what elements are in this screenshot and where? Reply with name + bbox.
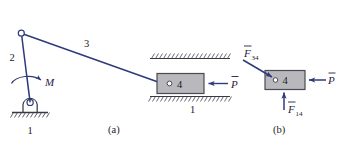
label-force-P-b: P: [327, 73, 336, 86]
label-force-F14-subscript: 14: [296, 110, 304, 118]
label-force-P-b-text: P: [327, 74, 335, 86]
label-force-F34: F 34: [243, 46, 259, 62]
label-force-F34-text: F: [243, 47, 251, 59]
label-force-F14-text: F: [287, 103, 295, 115]
label-ground-1-slider: 1: [190, 104, 195, 115]
figure-canvas: 2 3 M 1: [0, 0, 343, 150]
slider-guide-lower: [149, 97, 232, 102]
link-2-crank: [22, 34, 31, 102]
caption-a: (a): [108, 124, 120, 136]
label-block-4-a: 4: [177, 79, 183, 90]
slider-guide-upper: [150, 54, 231, 59]
label-force-P-a: P: [230, 77, 239, 90]
label-force-F14: F 14: [287, 102, 303, 118]
label-moment-M: M: [44, 76, 55, 88]
mechanism-figure: 2 3 M 1: [0, 0, 343, 150]
force-F34-arrow: [243, 60, 272, 77]
label-ground-1: 1: [28, 125, 33, 136]
caption-b: (b): [273, 124, 286, 136]
label-block-4-b: 4: [283, 75, 289, 86]
panel-b: 4 F 34 F 14 P: [243, 46, 336, 136]
slider-pin-joint: [167, 81, 172, 86]
revolute-joint-top: [18, 30, 24, 36]
label-link-3: 3: [84, 38, 89, 49]
label-force-F34-subscript: 34: [252, 54, 260, 62]
ground-support-base: [11, 113, 50, 118]
label-link-2: 2: [10, 52, 15, 63]
label-force-P-a-text: P: [230, 78, 238, 90]
panel-a: 2 3 M 1: [10, 30, 239, 136]
free-body-pin-marker: [273, 78, 278, 83]
